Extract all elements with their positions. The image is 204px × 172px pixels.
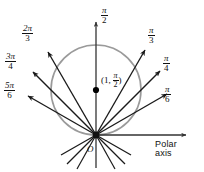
label-pi-over-2-denominator: 2 <box>101 16 108 25</box>
center-point-marker <box>93 87 99 93</box>
label-polar-axis-line2: axis <box>155 149 177 158</box>
label-center-point: (1, π2) <box>101 72 122 90</box>
label-2pi-over-3: 2π 3 <box>22 24 33 44</box>
label-pi-over-2: π 2 <box>101 6 108 26</box>
polar-graph-figure: π 2 2π 3 3π 4 5π 6 π 3 π 4 <box>0 0 204 172</box>
label-pi-over-4: π 4 <box>163 54 170 74</box>
label-pi-over-4-denominator: 4 <box>163 64 170 73</box>
label-center-point-open: (1, <box>101 75 113 85</box>
label-3pi-over-4: 3π 4 <box>5 52 16 72</box>
label-pi-over-3-denominator: 3 <box>148 36 155 45</box>
label-2pi-over-3-denominator: 3 <box>22 34 33 43</box>
label-5pi-over-6: 5π 6 <box>4 81 15 101</box>
label-pi-over-6-denominator: 6 <box>164 95 171 104</box>
label-polar-axis: Polar axis <box>155 140 177 158</box>
label-pi-over-6: π 6 <box>164 85 171 105</box>
pole-origin-dot <box>93 132 100 139</box>
label-center-point-close: ) <box>119 75 122 85</box>
label-origin-o: O <box>87 145 94 154</box>
label-5pi-over-6-denominator: 6 <box>4 91 15 100</box>
label-3pi-over-4-denominator: 4 <box>5 62 16 71</box>
label-pi-over-3: π 3 <box>148 26 155 46</box>
